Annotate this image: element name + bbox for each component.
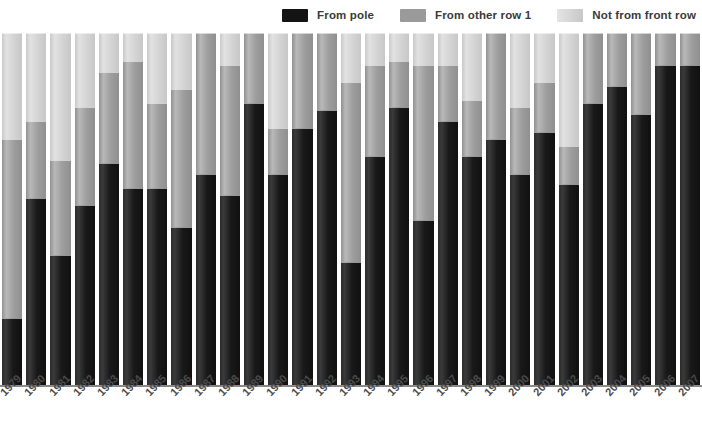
bar-segment-from-pole xyxy=(220,195,240,385)
bar-slot[interactable] xyxy=(653,33,677,385)
stacked-bar-1987[interactable] xyxy=(196,33,216,385)
bar-segment-from-other-row-1 xyxy=(631,33,651,114)
stacked-bar-1986[interactable] xyxy=(171,33,191,385)
bar-segment-from-pole xyxy=(486,139,506,385)
stacked-bar-1997[interactable] xyxy=(438,33,458,385)
stacked-bar-1999[interactable] xyxy=(486,33,506,385)
bar-slot[interactable] xyxy=(484,33,508,385)
bar-segment-not-from-front-row xyxy=(147,33,167,103)
legend-label: From pole xyxy=(317,9,374,21)
bar-slot[interactable] xyxy=(436,33,460,385)
bar-slot[interactable] xyxy=(605,33,629,385)
tick-slot: 1996 xyxy=(411,386,435,438)
bar-segment-from-pole xyxy=(26,198,46,385)
bar-slot[interactable] xyxy=(629,33,653,385)
stacked-bar-1990[interactable] xyxy=(268,33,288,385)
stacked-bar-2000[interactable] xyxy=(510,33,530,385)
stacked-bar-1989[interactable] xyxy=(244,33,264,385)
bar-slot[interactable] xyxy=(218,33,242,385)
legend-item-not_from_front_row[interactable]: Not from front row xyxy=(557,9,696,22)
legend-item-from_pole[interactable]: From pole xyxy=(282,9,374,22)
tick-slot: 1991 xyxy=(290,386,314,438)
tick-slot: 1984 xyxy=(121,386,145,438)
tick-slot: 2006 xyxy=(653,386,677,438)
stacked-bar-1981[interactable] xyxy=(50,33,70,385)
stacked-bar-1996[interactable] xyxy=(413,33,433,385)
bar-segment-from-other-row-1 xyxy=(534,82,554,131)
bar-slot[interactable] xyxy=(97,33,121,385)
bar-slot[interactable] xyxy=(508,33,532,385)
stacked-bar-2006[interactable] xyxy=(655,33,675,385)
bar-slot[interactable] xyxy=(242,33,266,385)
bar-slot[interactable] xyxy=(24,33,48,385)
bar-slot[interactable] xyxy=(387,33,411,385)
stacked-bar-2005[interactable] xyxy=(631,33,651,385)
stacked-bar-1994[interactable] xyxy=(365,33,385,385)
tick-slot: 2001 xyxy=(532,386,556,438)
chart-legend: From poleFrom other row 1Not from front … xyxy=(0,0,702,30)
stacked-bar-1995[interactable] xyxy=(389,33,409,385)
stacked-bar-1991[interactable] xyxy=(292,33,312,385)
bar-segment-from-other-row-1 xyxy=(2,139,22,319)
bar-segment-from-other-row-1 xyxy=(655,33,675,65)
bar-segment-not-from-front-row xyxy=(99,33,119,72)
legend-swatch-icon xyxy=(282,9,308,22)
stacked-bar-1984[interactable] xyxy=(123,33,143,385)
bar-slot[interactable] xyxy=(532,33,556,385)
stacked-bar-1980[interactable] xyxy=(26,33,46,385)
bar-slot[interactable] xyxy=(194,33,218,385)
bar-segment-from-pole xyxy=(462,156,482,385)
stacked-bar-1982[interactable] xyxy=(75,33,95,385)
bar-slot[interactable] xyxy=(290,33,314,385)
bar-segment-from-other-row-1 xyxy=(680,33,700,65)
bar-segment-not-from-front-row xyxy=(268,33,288,128)
bar-slot[interactable] xyxy=(73,33,97,385)
stacked-bar-2007[interactable] xyxy=(680,33,700,385)
stacked-bar-1985[interactable] xyxy=(147,33,167,385)
tick-slot: 1990 xyxy=(266,386,290,438)
stacked-bar-2003[interactable] xyxy=(583,33,603,385)
tick-slot: 1993 xyxy=(339,386,363,438)
bar-segment-not-from-front-row xyxy=(438,33,458,65)
bar-segment-from-pole xyxy=(583,103,603,385)
bar-segment-not-from-front-row xyxy=(26,33,46,121)
bar-slot[interactable] xyxy=(121,33,145,385)
stacked-bar-1993[interactable] xyxy=(341,33,361,385)
bar-slot[interactable] xyxy=(557,33,581,385)
bar-slot[interactable] xyxy=(48,33,72,385)
bar-slot[interactable] xyxy=(363,33,387,385)
bar-segment-from-pole xyxy=(365,156,385,385)
stacked-bar-1998[interactable] xyxy=(462,33,482,385)
bar-slot[interactable] xyxy=(266,33,290,385)
bar-slot[interactable] xyxy=(315,33,339,385)
bar-slot[interactable] xyxy=(145,33,169,385)
bar-slot[interactable] xyxy=(339,33,363,385)
stacked-bar-1979[interactable] xyxy=(2,33,22,385)
bar-segment-from-pole xyxy=(607,86,627,385)
stacked-bar-2001[interactable] xyxy=(534,33,554,385)
bar-segment-not-from-front-row xyxy=(2,33,22,139)
tick-slot: 2003 xyxy=(581,386,605,438)
bar-slot[interactable] xyxy=(460,33,484,385)
bar-slot[interactable] xyxy=(581,33,605,385)
bar-slot[interactable] xyxy=(411,33,435,385)
bar-segment-from-pole xyxy=(268,174,288,385)
tick-slot: 2000 xyxy=(508,386,532,438)
bar-segment-from-other-row-1 xyxy=(50,160,70,255)
legend-item-from_other_row_1[interactable]: From other row 1 xyxy=(400,9,531,22)
bar-segment-not-from-front-row xyxy=(171,33,191,89)
bar-slot[interactable] xyxy=(0,33,24,385)
stacked-bar-1988[interactable] xyxy=(220,33,240,385)
bar-slot[interactable] xyxy=(678,33,702,385)
legend-swatch-icon xyxy=(557,9,583,22)
bar-segment-not-from-front-row xyxy=(413,33,433,65)
stacked-bar-1983[interactable] xyxy=(99,33,119,385)
stacked-bar-2002[interactable] xyxy=(559,33,579,385)
bar-slot[interactable] xyxy=(169,33,193,385)
tick-slot: 1983 xyxy=(97,386,121,438)
stacked-bar-2004[interactable] xyxy=(607,33,627,385)
tick-slot: 1986 xyxy=(169,386,193,438)
stacked-bar-1992[interactable] xyxy=(317,33,337,385)
bar-segment-from-pole xyxy=(510,174,530,385)
bar-segment-from-other-row-1 xyxy=(510,107,530,174)
